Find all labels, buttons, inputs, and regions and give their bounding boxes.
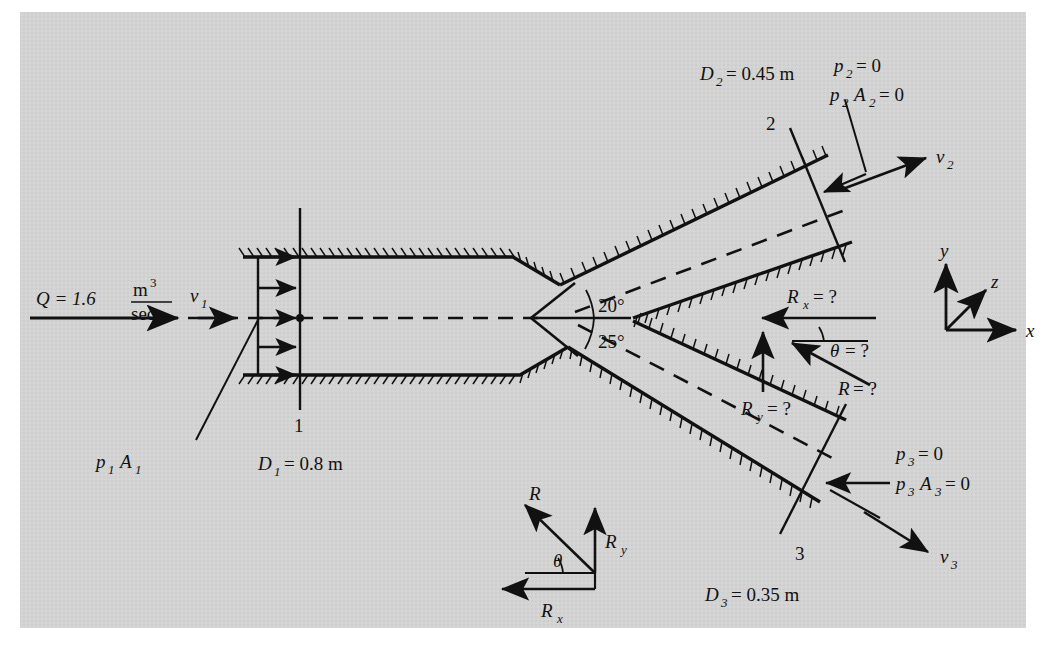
svg-text:R: R bbox=[786, 286, 799, 307]
svg-text:m: m bbox=[133, 279, 148, 300]
svg-text:A: A bbox=[852, 84, 866, 105]
svg-text:2: 2 bbox=[842, 95, 849, 110]
svg-text:R: R bbox=[740, 398, 753, 419]
svg-text:1: 1 bbox=[108, 462, 115, 477]
force-triangle-rx-sub: x bbox=[556, 611, 563, 626]
svg-text:1: 1 bbox=[274, 464, 281, 479]
svg-text:p: p bbox=[894, 443, 906, 464]
svg-text:R: R bbox=[837, 378, 850, 399]
reaction-r-label: R = ? bbox=[837, 378, 877, 399]
svg-text:D: D bbox=[699, 63, 714, 84]
svg-text:v: v bbox=[190, 285, 199, 306]
svg-text:p: p bbox=[832, 55, 844, 76]
svg-text:v: v bbox=[940, 546, 949, 567]
svg-text:D: D bbox=[704, 584, 719, 605]
svg-text:3: 3 bbox=[907, 484, 915, 499]
svg-text:1: 1 bbox=[135, 462, 142, 477]
svg-text:2: 2 bbox=[846, 66, 853, 81]
section-3-label: 3 bbox=[795, 543, 805, 564]
svg-text:2: 2 bbox=[716, 74, 723, 89]
svg-text:x: x bbox=[802, 297, 809, 312]
svg-text:= ?: = ? bbox=[813, 286, 837, 307]
svg-text:= 0.8 m: = 0.8 m bbox=[284, 453, 343, 474]
svg-text:3: 3 bbox=[907, 454, 915, 469]
force-triangle-ry-label: R bbox=[604, 531, 617, 552]
svg-text:= ?: = ? bbox=[845, 340, 869, 361]
reaction-theta-label: θ = ? bbox=[830, 340, 869, 361]
svg-text:θ: θ bbox=[830, 340, 839, 361]
svg-text:3: 3 bbox=[720, 595, 728, 610]
force-triangle-theta-label: θ bbox=[553, 550, 562, 571]
diagram-svg: Q = 1.6 m 3 sec v 1 1 p 1 bbox=[0, 0, 1064, 653]
svg-text:= 0.45 m: = 0.45 m bbox=[726, 63, 794, 84]
svg-text:1: 1 bbox=[201, 296, 208, 311]
svg-text:= 0: = 0 bbox=[856, 55, 881, 76]
svg-text:v: v bbox=[936, 146, 945, 167]
force-triangle-r-label: R bbox=[528, 483, 541, 504]
svg-text:sec: sec bbox=[131, 303, 155, 324]
svg-text:= 0: = 0 bbox=[879, 84, 904, 105]
svg-text:= 0: = 0 bbox=[945, 473, 970, 494]
svg-text:3: 3 bbox=[950, 557, 958, 572]
force-triangle-rx-label: R bbox=[540, 600, 553, 621]
svg-text:D: D bbox=[257, 453, 272, 474]
svg-text:2: 2 bbox=[869, 95, 876, 110]
svg-text:p: p bbox=[828, 84, 840, 105]
section-2-label: 2 bbox=[766, 113, 776, 134]
svg-text:y: y bbox=[755, 409, 763, 424]
svg-text:p: p bbox=[894, 473, 906, 494]
axis-z-label: z bbox=[990, 271, 999, 292]
svg-text:A: A bbox=[918, 473, 932, 494]
section-1-label: 1 bbox=[294, 415, 304, 436]
svg-text:= ?: = ? bbox=[767, 398, 791, 419]
svg-text:= 0.35 m: = 0.35 m bbox=[731, 584, 799, 605]
svg-text:Q = 1.6: Q = 1.6 bbox=[36, 288, 96, 309]
svg-text:2: 2 bbox=[947, 157, 954, 172]
figure-stage: Q = 1.6 m 3 sec v 1 1 p 1 bbox=[0, 0, 1064, 653]
svg-text:= 0: = 0 bbox=[918, 443, 943, 464]
axis-y-label: y bbox=[938, 240, 949, 261]
svg-text:3: 3 bbox=[150, 275, 157, 290]
force-triangle-ry-sub: y bbox=[619, 542, 627, 557]
svg-text:A: A bbox=[118, 451, 132, 472]
axis-x-label: x bbox=[1025, 320, 1035, 341]
svg-text:= ?: = ? bbox=[853, 378, 877, 399]
svg-text:p: p bbox=[94, 451, 106, 472]
svg-text:3: 3 bbox=[934, 484, 942, 499]
